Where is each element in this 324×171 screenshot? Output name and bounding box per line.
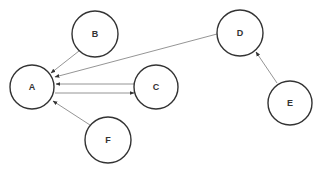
- node-label: A: [29, 82, 36, 92]
- node-e: E: [268, 81, 312, 125]
- nodes-layer: ABCDEF: [10, 10, 312, 163]
- node-label: B: [92, 29, 99, 39]
- edge-b-to-a-arrow: [51, 51, 79, 73]
- edge-e-to-d-arrow: [256, 52, 277, 83]
- node-d: D: [217, 10, 263, 56]
- node-label: D: [237, 28, 244, 38]
- node-c: C: [134, 65, 178, 109]
- node-a: A: [10, 65, 54, 109]
- node-label: E: [287, 98, 293, 108]
- edge-f-to-a-arrow: [53, 101, 90, 125]
- graph-diagram: ABCDEF: [0, 0, 324, 171]
- node-label: F: [105, 135, 111, 145]
- node-f: F: [85, 117, 131, 163]
- node-b: B: [72, 11, 118, 57]
- node-label: C: [153, 82, 160, 92]
